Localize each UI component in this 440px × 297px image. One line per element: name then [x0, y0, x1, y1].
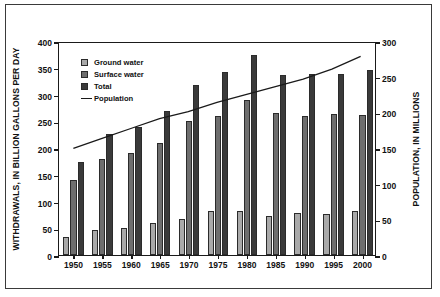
x-tick-label: 1965 — [151, 260, 170, 270]
bar-total — [251, 55, 257, 255]
y-tick-label-left: 100 — [38, 199, 52, 208]
bar-total — [193, 85, 199, 255]
x-tick-label: 2000 — [353, 260, 372, 270]
x-tick — [334, 255, 335, 259]
y-tick-label-left: 50 — [43, 226, 52, 235]
legend-label: Population — [94, 95, 133, 103]
y-tick-left — [54, 69, 59, 70]
bar-ground — [63, 237, 69, 255]
x-tick-label: 1995 — [324, 260, 343, 270]
x-tick — [160, 255, 161, 259]
bar-group — [323, 43, 344, 255]
y-tick-left — [54, 203, 59, 204]
bar-ground — [266, 216, 272, 255]
y-tick-label-left: 250 — [38, 119, 52, 128]
x-tick — [305, 255, 306, 259]
bar-surface — [99, 159, 105, 255]
bar-surface — [331, 114, 337, 255]
y-tick-label-left: 150 — [38, 173, 52, 182]
y-tick-right — [375, 256, 380, 257]
plot-area: 050100150200250300350400 050100150200250… — [58, 42, 376, 256]
bar-ground — [352, 211, 358, 255]
x-tick — [131, 255, 132, 259]
bar-surface — [302, 116, 308, 255]
x-tick-label: 1955 — [93, 260, 112, 270]
x-tick — [189, 255, 190, 259]
y-tick-label-left: 350 — [38, 66, 52, 75]
y-tick-label-left: 400 — [38, 39, 52, 48]
legend-swatch-total — [81, 83, 88, 90]
bar-total — [222, 72, 228, 255]
x-tick-label: 1990 — [295, 260, 314, 270]
y-tick-right — [375, 185, 380, 186]
y-tick-label-right: 150 — [382, 146, 396, 155]
legend-label: Ground water — [94, 59, 143, 67]
bar-total — [78, 162, 84, 255]
legend-label: Total — [94, 83, 112, 91]
bar-ground — [179, 219, 185, 255]
y-axis-title-right: POPULATION, IN MILLIONS — [411, 92, 421, 207]
legend-swatch-surface — [81, 71, 88, 78]
bar-group — [237, 43, 258, 255]
y-tick-left — [54, 149, 59, 150]
bar-group — [294, 43, 315, 255]
x-tick — [73, 255, 74, 259]
y-tick-right — [375, 78, 380, 79]
x-tick-label: 1970 — [180, 260, 199, 270]
bar-total — [164, 111, 170, 255]
y-tick-label-right: 50 — [382, 217, 391, 226]
bar-ground — [92, 230, 98, 255]
y-tick-right — [375, 42, 380, 43]
x-tick-label: 1985 — [266, 260, 285, 270]
bar-surface — [215, 116, 221, 255]
y-tick-left — [54, 256, 59, 257]
y-tick-label-left: 200 — [38, 146, 52, 155]
y-tick-left — [54, 96, 59, 97]
x-tick-label: 1960 — [122, 260, 141, 270]
y-tick-right — [375, 114, 380, 115]
y-tick-left — [54, 230, 59, 231]
bar-surface — [157, 143, 163, 255]
legend-item: Total — [81, 81, 185, 92]
figure: WITHDRAWALS, IN BILLION GALLONS PER DAY … — [0, 0, 440, 297]
y-tick-label-right: 0 — [382, 253, 387, 262]
legend-swatch-ground — [81, 59, 88, 66]
y-tick-left — [54, 176, 59, 177]
x-tick-label: 1975 — [209, 260, 228, 270]
bar-total — [135, 127, 141, 255]
x-tick-label: 1950 — [64, 260, 83, 270]
bar-surface — [186, 121, 192, 255]
bar-ground — [150, 223, 156, 255]
bar-total — [280, 75, 286, 255]
bar-ground — [294, 213, 300, 255]
legend-item: Surface water — [81, 69, 185, 80]
bar-total — [309, 74, 315, 255]
legend-label: Surface water — [94, 71, 144, 79]
bar-ground — [237, 211, 243, 255]
y-tick-label-right: 200 — [382, 110, 396, 119]
x-tick — [218, 255, 219, 259]
bar-surface — [128, 153, 134, 255]
bar-total — [106, 134, 112, 255]
x-tick — [102, 255, 103, 259]
y-tick-right — [375, 149, 380, 150]
y-tick-label-right: 250 — [382, 74, 396, 83]
legend-line-marker — [81, 98, 92, 99]
bar-surface — [70, 180, 76, 255]
bar-surface — [359, 115, 365, 255]
chart-legend: Ground waterSurface waterTotalPopulation — [81, 57, 185, 105]
x-tick-label: 1980 — [237, 260, 256, 270]
x-tick — [247, 255, 248, 259]
bar-ground — [208, 211, 214, 255]
bar-group — [352, 43, 373, 255]
bar-group — [266, 43, 287, 255]
x-tick — [276, 255, 277, 259]
bar-total — [338, 74, 344, 255]
y-axis-title-left: WITHDRAWALS, IN BILLION GALLONS PER DAY — [11, 47, 21, 250]
bar-total — [367, 70, 373, 255]
y-tick-label-left: 300 — [38, 92, 52, 101]
y-tick-left — [54, 42, 59, 43]
bar-surface — [273, 113, 279, 255]
legend-item: Ground water — [81, 57, 185, 68]
bar-ground — [323, 214, 329, 255]
